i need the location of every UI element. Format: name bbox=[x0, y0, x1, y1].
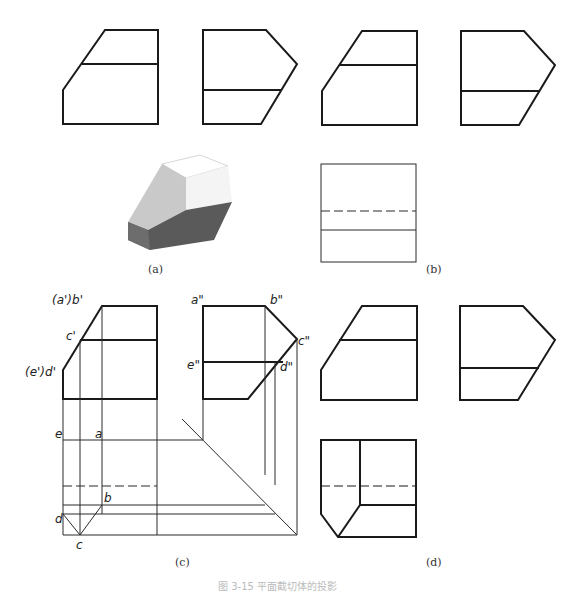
panel-b-top-view bbox=[321, 164, 416, 262]
svg-text:b": b" bbox=[270, 293, 283, 307]
svg-text:d": d" bbox=[280, 360, 293, 374]
svg-text:(a')b': (a')b' bbox=[52, 293, 83, 307]
panel-a-side-view bbox=[203, 30, 297, 124]
three-view-projection-figure: (a) (b) bbox=[0, 0, 579, 595]
panel-c-point-labels: (a')b' c' (e')d' a" b" c" e" d" e a b d … bbox=[25, 293, 310, 552]
panel-c-top-view bbox=[63, 440, 297, 535]
panel-d: (d) bbox=[321, 306, 555, 569]
figure-caption: 图 3-15 平面截切体的投影 bbox=[218, 580, 337, 592]
panel-a: (a) bbox=[63, 30, 297, 276]
svg-text:(e')d': (e')d' bbox=[25, 365, 56, 379]
panel-c-side-view bbox=[203, 306, 297, 535]
panel-c-label: (c) bbox=[175, 556, 190, 569]
panel-b-side-view bbox=[461, 31, 555, 125]
svg-text:e": e" bbox=[187, 358, 200, 372]
panel-a-label: (a) bbox=[148, 263, 163, 276]
svg-text:b: b bbox=[104, 491, 112, 505]
panel-d-label: (d) bbox=[426, 556, 442, 569]
svg-text:a: a bbox=[95, 427, 102, 441]
panel-b-label: (b) bbox=[426, 263, 442, 276]
svg-text:c': c' bbox=[66, 329, 76, 343]
panel-d-side-view bbox=[460, 306, 555, 400]
panel-d-front-view bbox=[321, 306, 417, 400]
panel-a-front-view bbox=[63, 30, 158, 124]
panel-b: (b) bbox=[321, 31, 555, 276]
svg-text:a": a" bbox=[191, 293, 204, 307]
svg-text:e: e bbox=[55, 427, 62, 441]
panel-d-top-view bbox=[321, 440, 416, 537]
panel-a-isometric-solid bbox=[128, 155, 232, 250]
svg-text:d: d bbox=[55, 512, 63, 526]
svg-text:c": c" bbox=[298, 334, 310, 348]
svg-text:c: c bbox=[76, 538, 83, 552]
panel-b-front-view bbox=[322, 31, 417, 125]
panel-c: (a')b' c' (e')d' a" b" c" e" d" e a b d … bbox=[25, 293, 310, 569]
miter-line-45deg bbox=[182, 419, 297, 535]
